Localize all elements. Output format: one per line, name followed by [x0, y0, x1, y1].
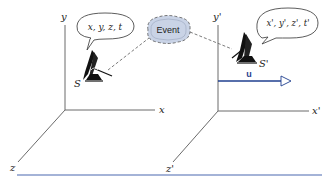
y-axis-label: y	[60, 11, 67, 22]
y-prime-axis-label: y'	[212, 11, 221, 22]
observer-label-s: S	[74, 78, 81, 89]
velocity-arrow: u	[218, 69, 291, 86]
x-axis-label: x	[159, 104, 165, 115]
z-axis-label: z	[9, 162, 16, 173]
observer-label-s-prime: S'	[259, 58, 269, 69]
speech-bubble-s-prime: x', y', z', t'	[257, 8, 318, 44]
speech-bubble-s: x, y, z, t	[77, 13, 134, 50]
event-label: Event	[156, 25, 180, 35]
velocity-label: u	[246, 69, 252, 79]
observer-icon-s-prime	[232, 32, 257, 63]
event-blob: Event	[148, 16, 190, 44]
observer-icon-s	[83, 50, 112, 81]
z-prime-axis	[173, 111, 218, 162]
z-prime-axis-label: z'	[165, 163, 174, 174]
sightline-s	[108, 38, 149, 70]
frame-s: y x z x, y, z, t S	[9, 11, 165, 173]
z-axis	[18, 110, 65, 162]
x-prime-axis-label: x'	[312, 105, 320, 116]
reference-frames-diagram: y x z x, y, z, t S Event y' x'	[0, 0, 330, 178]
coordinates-text-s-prime: x', y', z', t'	[266, 18, 309, 28]
coordinates-text-s: x, y, z, t	[88, 22, 123, 32]
sightline-s-prime	[190, 32, 232, 49]
